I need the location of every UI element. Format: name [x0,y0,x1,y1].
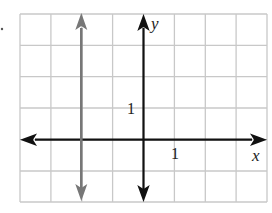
y-tick-label-1: 1 [127,100,135,117]
stray-dot [1,28,3,30]
y-axis-label: y [149,14,159,33]
x-axis-label: x [251,146,260,165]
coordinate-graph: y x 1 1 [0,0,272,213]
x-tick-label-1: 1 [171,145,179,162]
